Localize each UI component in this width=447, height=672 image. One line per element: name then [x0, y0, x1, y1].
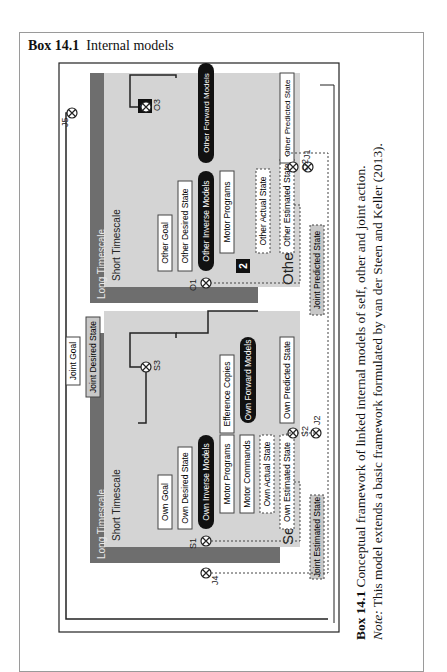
own-predicted-state-label: Own Predicted State [282, 341, 292, 419]
caption-text: Conceptual framework of linked internal … [353, 165, 368, 590]
box-title-text: Internal models [86, 38, 173, 53]
figure-caption: Box 14.1 Conceptual framework of linked … [352, 40, 386, 640]
joint-predicted-state-label: Joint Predicted State [312, 231, 322, 310]
efference-copies-label: Efference Copies [222, 361, 232, 426]
other-inverse-models-label: Other Inverse Models [201, 180, 211, 261]
own-goal-label: Own Goal [160, 483, 170, 521]
internal-models-diagram: Long Timescale Short Timescale Sefl Long… [58, 62, 340, 633]
self-short-timescale-label: Short Timescale [111, 469, 122, 541]
comparator-j2 [311, 428, 321, 438]
other-predicted-state-label: Other Predicted State [283, 79, 292, 156]
other-forward-models-label: Other Forward Models [202, 73, 211, 153]
j4-label: J4 [210, 575, 220, 585]
other-desired-state-label: Other Desired State [180, 188, 190, 263]
own-desired-state-label: Own Desired State [180, 452, 190, 524]
comparator-s3 [141, 362, 151, 372]
j2-label: J2 [312, 415, 322, 425]
comparator-s1 [201, 536, 211, 546]
caption-label: Box 14.1 [353, 591, 368, 640]
comparator-o2 [288, 162, 298, 172]
joint-estimated-state-label: Joint Estimated State [312, 497, 322, 578]
other-motor-programs-label: Motor Programs [222, 182, 232, 243]
other-estimated-state-label: Other Estimated State [282, 163, 292, 247]
other-short-timescale-label: Short Timescale [111, 209, 122, 281]
own-forward-models-label: Own Forward Models [243, 340, 253, 421]
o3-label: O3 [152, 99, 162, 111]
s3-label: S3 [152, 360, 162, 371]
s2-label: S2 [300, 426, 310, 437]
o1-label: O1 [188, 279, 198, 291]
joint-desired-state-label: Joint Desired State [88, 321, 98, 393]
own-estimated-state-label: Own Estimated State [282, 442, 292, 522]
note-text: This model extends a basic framework for… [370, 143, 385, 610]
badge-2-label: 2 [238, 263, 249, 269]
s1-label: S1 [188, 538, 198, 549]
joint-goal-label: Joint Goal [68, 342, 78, 380]
note-label: Note: [370, 610, 385, 640]
own-actual-state-label: Own Actual State [262, 441, 272, 506]
comparator-o1 [201, 278, 211, 288]
j5-label: J5 [60, 117, 70, 127]
o2-label: O2 [300, 159, 310, 171]
other-actual-state-label: Other Actual State [258, 176, 268, 245]
motor-commands-label: Motor Commands [242, 440, 252, 508]
comparator-o3 [141, 102, 151, 112]
other-long-timescale-label: Long Timescale [96, 229, 107, 299]
box-title: Box 14.1 Internal models [28, 38, 174, 54]
self-long-timescale-label: Long Timescale [96, 489, 107, 559]
own-inverse-models-label: Own Inverse Models [201, 443, 211, 520]
self-motor-programs-label: Motor Programs [222, 444, 232, 505]
j1-label: J1 [302, 149, 312, 159]
box-number: Box 14.1 [28, 38, 79, 53]
other-goal-label: Other Goal [160, 222, 170, 264]
